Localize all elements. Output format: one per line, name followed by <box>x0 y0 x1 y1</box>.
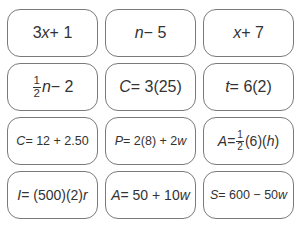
card-c-equals-12-plus-2-50[interactable]: C = 12 + 2.50 <box>7 117 98 165</box>
variable-r: r <box>83 187 88 203</box>
numerator: 1 <box>236 130 244 141</box>
expression-rest: + 7 <box>241 24 264 42</box>
variable: x <box>42 24 50 42</box>
card-c-equals-3-25[interactable]: C = 3(25) <box>105 63 196 111</box>
card-i-equals-500-2-r[interactable]: I = (500)(2)r <box>7 171 98 219</box>
expression-rest: = (500)(2) <box>21 187 83 203</box>
card-s-equals-600-minus-50w[interactable]: S = 600 − 50w <box>203 171 294 219</box>
variable: n <box>135 24 144 42</box>
footer-text: · · · · · · · · · · · · · · · · · · · · <box>6 224 180 228</box>
card-3x-plus-1[interactable]: 3x + 1 <box>7 9 98 57</box>
expression-rest: = 3(25) <box>131 78 182 96</box>
variable: C <box>119 78 131 96</box>
variable-w: w <box>180 187 190 203</box>
variable: A <box>218 133 227 149</box>
card-a-equals-half-6-h[interactable]: A = 12(6)(h) <box>203 117 294 165</box>
expression-rest: − 5 <box>144 24 167 42</box>
expression-card-grid: 3x + 1 n − 5 x + 7 12n − 2 C = 3(25) t =… <box>7 9 294 219</box>
variable: A <box>111 187 120 203</box>
expression-rest: = 12 + 2.50 <box>25 134 88 148</box>
card-a-equals-50-plus-10w[interactable]: A = 50 + 10w <box>105 171 196 219</box>
variable: x <box>233 24 241 42</box>
card-p-equals-2-8-plus-2w[interactable]: P = 2(8) + 2w <box>105 117 196 165</box>
variable: n <box>42 78 51 96</box>
card-x-plus-7[interactable]: x + 7 <box>203 9 294 57</box>
coefficient: 3 <box>33 24 42 42</box>
expression-rest: = 600 − 50 <box>218 188 278 202</box>
numerator: 1 <box>33 75 41 88</box>
expression-rest: = 6(2) <box>230 78 272 96</box>
fraction: 12 <box>33 75 41 99</box>
cut-off-footer-text: · · · · · · · · · · · · · · · · · · · · <box>0 222 300 228</box>
variable: S <box>210 188 218 202</box>
denominator: 2 <box>237 142 243 152</box>
variable: C <box>16 134 25 148</box>
expression-rest: + 1 <box>50 24 73 42</box>
card-half-n-minus-2[interactable]: 12n − 2 <box>7 63 98 111</box>
fraction: 12 <box>236 130 244 151</box>
variable: P <box>115 134 123 148</box>
expression-rest: = 2(8) + 2 <box>123 134 177 148</box>
expression-rest: = 50 + 10 <box>121 187 180 203</box>
denominator: 2 <box>34 88 40 100</box>
expression-rest: (6)( <box>245 133 267 149</box>
card-t-equals-6-2[interactable]: t = 6(2) <box>203 63 294 111</box>
variable-w: w <box>177 134 186 148</box>
close-paren: ) <box>275 133 280 149</box>
variable-w: w <box>278 188 287 202</box>
variable-h: h <box>267 133 275 149</box>
equals: = <box>227 133 235 149</box>
card-n-minus-5[interactable]: n − 5 <box>105 9 196 57</box>
expression-rest: − 2 <box>51 78 74 96</box>
